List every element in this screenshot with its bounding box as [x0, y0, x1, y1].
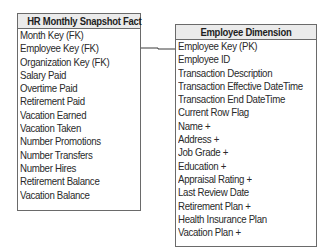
fact-table-columns: Month Key (FK) Employee Key (FK) Organiz…: [18, 29, 140, 202]
dimension-column: Employee Key (PK): [178, 40, 316, 53]
fact-column: Vacation Balance: [20, 189, 140, 202]
dimension-column: Name +: [178, 120, 316, 133]
fact-column: Vacation Taken: [20, 122, 140, 135]
dimension-column: Last Review Date: [178, 186, 316, 199]
dimension-column: Education +: [178, 160, 316, 173]
fact-column: Number Hires: [20, 162, 140, 175]
fact-column: Employee Key (FK): [20, 42, 140, 55]
dimension-column: Address +: [178, 133, 316, 146]
fact-table-title: HR Monthly Snapshot Fact: [18, 14, 140, 29]
fact-column: Retirement Balance: [20, 175, 140, 188]
fact-column: Number Promotions: [20, 135, 140, 148]
dimension-table-columns: Employee Key (PK) Employee ID Transactio…: [176, 40, 316, 239]
fact-column: Overtime Paid: [20, 82, 140, 95]
dimension-column: Current Row Flag: [178, 106, 316, 119]
dimension-column: Transaction Description: [178, 67, 316, 80]
dimension-column: Job Grade +: [178, 146, 316, 159]
dimension-table-title: Employee Dimension: [176, 25, 316, 40]
fact-table-hr-monthly-snapshot: HR Monthly Snapshot Fact Month Key (FK) …: [17, 13, 141, 211]
dimension-table-employee: Employee Dimension Employee Key (PK) Emp…: [175, 24, 317, 247]
fact-column: Organization Key (FK): [20, 56, 140, 69]
dimension-column: Transaction Effective DateTime: [178, 80, 316, 93]
dimension-column: Transaction End DateTime: [178, 93, 316, 106]
fact-column: Vacation Earned: [20, 109, 140, 122]
fact-column: Salary Paid: [20, 69, 140, 82]
dimension-column: Retirement Plan +: [178, 200, 316, 213]
dimension-column: Vacation Plan +: [178, 226, 316, 239]
dimension-column: Employee ID: [178, 53, 316, 66]
dimension-column: Health Insurance Plan: [178, 213, 316, 226]
fact-column: Retirement Paid: [20, 95, 140, 108]
dimension-column: Appraisal Rating +: [178, 173, 316, 186]
fact-column: Month Key (FK): [20, 29, 140, 42]
fact-column: Number Transfers: [20, 149, 140, 162]
